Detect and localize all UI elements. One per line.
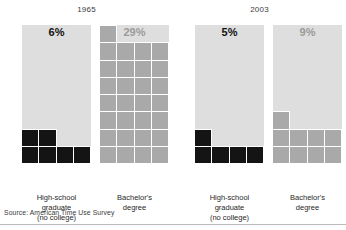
panel-2003: 2003 5% High-schoolgraduate(no college) … <box>173 0 346 205</box>
category-label-line-0: High-school <box>16 193 97 203</box>
waffle-cell <box>290 129 307 146</box>
category-label-line-0: Bachelor's <box>94 193 175 203</box>
waffle-cell <box>152 111 169 128</box>
waffle-grid <box>22 25 91 163</box>
waffle-cell <box>117 111 134 128</box>
waffle-cell <box>22 129 39 146</box>
waffle-cell <box>135 60 152 77</box>
panels-container: 1965 6% High-schoolgraduate(no college) … <box>0 0 346 205</box>
waffle-grid <box>195 25 264 163</box>
waffle-cell <box>212 146 229 163</box>
waffle-cell <box>100 94 117 111</box>
panel-1965: 1965 6% High-schoolgraduate(no college) … <box>0 0 173 205</box>
waffle-cell <box>74 146 91 163</box>
waffle-cell <box>273 146 290 163</box>
waffle-cell <box>152 94 169 111</box>
waffle-bar: 29% <box>100 25 169 163</box>
value-label: 29% <box>100 26 169 38</box>
waffle-cell <box>135 111 152 128</box>
category-label-line-2: (no college) <box>189 213 270 223</box>
waffle-cell <box>135 146 152 163</box>
waffle-cell <box>273 129 290 146</box>
waffle-cell <box>57 146 74 163</box>
column-bachelors-1965: 29% Bachelor'sdegree <box>100 25 169 163</box>
waffle-cell <box>135 77 152 94</box>
category-label: High-schoolgraduate(no college) <box>189 193 270 223</box>
waffle-cell <box>135 129 152 146</box>
waffle-cell <box>152 60 169 77</box>
waffle-cell <box>135 42 152 59</box>
waffle-grid <box>100 25 169 163</box>
waffle-cell <box>195 129 212 146</box>
footer-divider <box>0 224 346 225</box>
waffle-cell <box>230 146 247 163</box>
waffle-cell <box>100 111 117 128</box>
year-label: 1965 <box>0 5 173 14</box>
waffle-cell <box>290 146 307 163</box>
column-highschool-1965: 6% High-schoolgraduate(no college) <box>22 25 91 163</box>
category-label-line-1: graduate <box>189 203 270 213</box>
category-label: High-schoolgraduate(no college) <box>16 193 97 223</box>
waffle-cell <box>22 146 39 163</box>
waffle-cell <box>39 146 56 163</box>
category-label-line-0: High-school <box>189 193 270 203</box>
value-label: 6% <box>22 26 91 38</box>
waffle-chart-figure: 1965 6% High-schoolgraduate(no college) … <box>0 0 346 230</box>
waffle-cell <box>195 146 212 163</box>
value-label: 5% <box>195 26 264 38</box>
column-highschool-2003: 5% High-schoolgraduate(no college) <box>195 25 264 163</box>
waffle-cell <box>152 77 169 94</box>
waffle-cell <box>247 146 264 163</box>
waffle-bar: 5% <box>195 25 264 163</box>
category-label-line-0: Bachelor's <box>267 193 346 203</box>
waffle-cell <box>100 60 117 77</box>
waffle-bar: 9% <box>273 25 342 163</box>
waffle-cell <box>100 146 117 163</box>
waffle-cell <box>117 77 134 94</box>
source-note: Source: American Time Use Survey <box>4 209 114 216</box>
waffle-cell <box>39 129 56 146</box>
waffle-cell <box>117 42 134 59</box>
waffle-cell <box>152 146 169 163</box>
waffle-cell <box>273 111 290 128</box>
waffle-grid <box>273 25 342 163</box>
waffle-cell <box>117 60 134 77</box>
waffle-bar: 6% <box>22 25 91 163</box>
waffle-cell <box>100 42 117 59</box>
waffle-cell <box>100 129 117 146</box>
waffle-cell <box>117 94 134 111</box>
waffle-cell <box>100 77 117 94</box>
category-label-line-1: degree <box>267 203 346 213</box>
category-label: Bachelor'sdegree <box>267 193 346 213</box>
waffle-cell <box>308 146 325 163</box>
waffle-cell <box>135 94 152 111</box>
year-label: 2003 <box>173 5 346 14</box>
waffle-cell <box>325 129 342 146</box>
waffle-cell <box>117 146 134 163</box>
waffle-cell <box>152 129 169 146</box>
value-label: 9% <box>273 26 342 38</box>
column-bachelors-2003: 9% Bachelor'sdegree <box>273 25 342 163</box>
waffle-cell <box>308 129 325 146</box>
waffle-cell <box>325 146 342 163</box>
waffle-cell <box>117 129 134 146</box>
waffle-cell <box>152 42 169 59</box>
